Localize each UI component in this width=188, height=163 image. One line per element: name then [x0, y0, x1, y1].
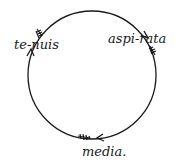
node-label-media: media.	[82, 145, 126, 158]
sound-shift-cycle-diagram: te-nuis aspi-rata media.	[0, 0, 188, 163]
node-label-aspirata: aspi-rata	[108, 32, 166, 45]
node-label-tenuis: te-nuis	[14, 38, 59, 51]
cycle-circle-svg	[0, 0, 188, 163]
